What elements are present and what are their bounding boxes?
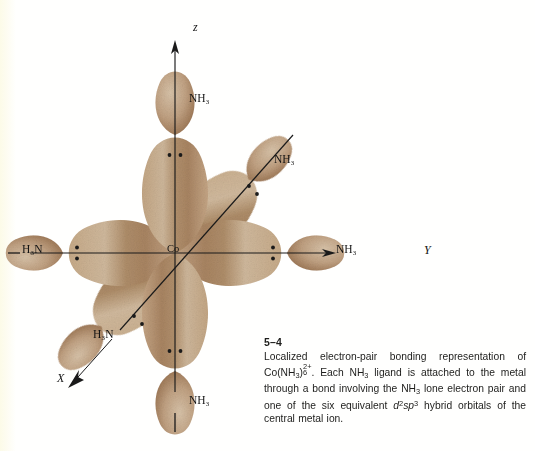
ligand-label-top: NH₃ — [189, 92, 210, 104]
ligand-label-left: H₃N — [22, 243, 43, 255]
caption-segment-1: Localized electron-pair bonding represen… — [264, 351, 526, 362]
orbital-sp: sp — [403, 401, 414, 412]
electron-dot — [271, 246, 275, 250]
electron-dot — [179, 153, 183, 157]
ligand-label-right: NH₃ — [336, 243, 357, 255]
electron-dot — [247, 184, 251, 188]
axis-label-y: Y — [424, 243, 431, 258]
electron-dot — [168, 349, 172, 353]
figure-caption-block: 5–4 Localized electron-pair bonding repr… — [264, 336, 526, 425]
electron-dot — [132, 314, 136, 318]
formula-count: 6 — [303, 369, 311, 376]
formula-lead: Co(NH — [264, 367, 295, 378]
ligand-label-upper-right: NH₃ — [274, 153, 295, 165]
electron-dot — [179, 349, 183, 353]
electron-dot — [75, 257, 79, 261]
electron-dot — [168, 153, 172, 157]
axis-label-x: X — [57, 371, 64, 386]
ligand-label-lower-left: H₃N — [93, 328, 114, 340]
figure-number: 5–4 — [264, 336, 526, 348]
electron-dot — [255, 192, 259, 196]
electron-dot — [271, 257, 275, 261]
formula-charge-count: 2+6 — [303, 363, 311, 377]
ligand-label-bottom: NH₃ — [189, 394, 210, 406]
electron-dot — [75, 246, 79, 250]
figure-caption-text: Localized electron-pair bonding represen… — [264, 351, 526, 425]
page-background: z Y X NH₃ NH₃ NH₃ H₃N NH₃ H₃N Co 5–4 Loc… — [0, 0, 535, 451]
axis-label-z: z — [193, 20, 198, 35]
central-atom-label: Co — [167, 243, 179, 254]
caption-segment-2: . Each NH — [311, 367, 364, 378]
electron-dot — [140, 322, 144, 326]
